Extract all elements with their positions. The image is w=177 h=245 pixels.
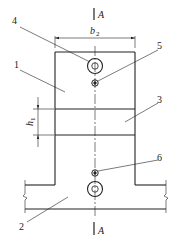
section-mark-top: A	[94, 8, 105, 20]
section-label-top: A	[97, 9, 105, 20]
dim-b-subscript: 2	[96, 30, 100, 38]
technical-drawing: A A b 2 h 1	[0, 0, 177, 245]
callout-3: 3	[157, 94, 162, 105]
dim-h-subscript: 1	[29, 117, 37, 121]
callout-1: 1	[14, 59, 19, 70]
dimension-b2: b 2	[55, 25, 135, 48]
section-label-bottom: A	[97, 225, 105, 236]
section-mark-bottom: A	[94, 222, 105, 236]
callout-5: 5	[157, 40, 162, 51]
callout-2: 2	[19, 221, 24, 232]
dim-b-label: b	[90, 25, 95, 36]
dimension-h1: h 1	[24, 97, 54, 147]
callout-4: 4	[12, 15, 17, 26]
callout-6: 6	[157, 152, 162, 163]
